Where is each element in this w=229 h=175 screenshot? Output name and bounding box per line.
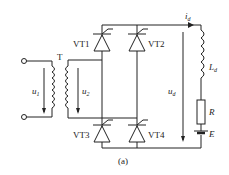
u1-label: u1	[32, 86, 40, 97]
primary-leads	[27, 61, 53, 117]
e-label: E	[208, 129, 215, 139]
id-label: id	[185, 11, 192, 22]
figure-caption: (a)	[118, 156, 128, 166]
primary-winding	[52, 66, 55, 110]
rectifier-circuit-diagram: T u1 u2 VT1 VT2 VT3 VT4 id Ld R E ud (a)	[0, 0, 229, 175]
thyristor-vt4	[128, 120, 148, 142]
id-arrow	[188, 22, 194, 28]
resistor	[197, 100, 205, 124]
u2-label: u2	[82, 86, 90, 97]
vt3-label: VT3	[73, 130, 90, 140]
thyristor-vt2	[128, 29, 148, 51]
ld-label: Ld	[208, 62, 218, 73]
input-terminal-bottom	[22, 115, 27, 120]
vt4-label: VT4	[148, 130, 165, 140]
r-label: R	[208, 107, 215, 117]
vt1-label: VT1	[73, 39, 90, 49]
thyristor-vt3	[93, 120, 113, 142]
input-terminal-top	[22, 59, 27, 64]
emf-source	[194, 124, 208, 148]
transformer-label: T	[57, 52, 63, 62]
secondary-winding	[66, 66, 69, 110]
ud-label: ud	[168, 86, 177, 97]
vt2-label: VT2	[148, 39, 165, 49]
thyristor-vt1	[93, 29, 113, 51]
inductor	[201, 25, 204, 100]
